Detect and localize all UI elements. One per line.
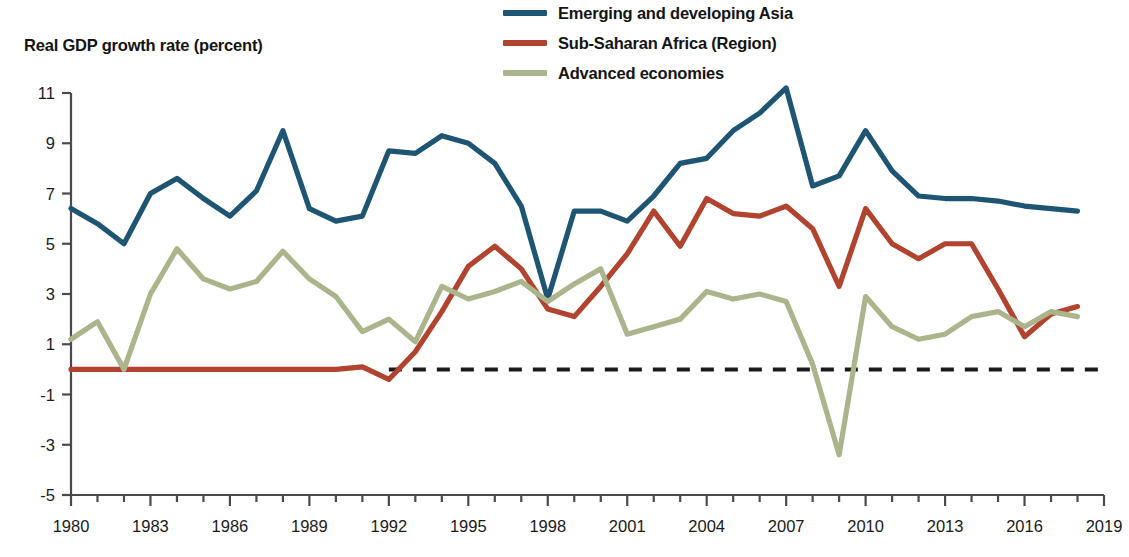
x-axis-ticks (71, 495, 1104, 506)
gdp-growth-line-chart: Real GDP growth rate (percent) Emerging … (0, 0, 1129, 557)
series-line (71, 199, 1078, 380)
svg-text:2013: 2013 (927, 517, 964, 535)
svg-text:2001: 2001 (609, 517, 646, 535)
svg-text:-5: -5 (40, 486, 55, 504)
data-series (71, 88, 1078, 455)
svg-text:2007: 2007 (768, 517, 805, 535)
svg-text:7: 7 (46, 185, 55, 203)
axis-lines (71, 93, 1104, 495)
x-axis-tick-labels: 1980198319861989199219951998200120042007… (53, 517, 1123, 535)
svg-text:1989: 1989 (291, 517, 328, 535)
svg-text:-3: -3 (40, 436, 55, 454)
y-axis-ticks (62, 93, 71, 495)
plot-area: 1197531-1-3-5 19801983198619891992199519… (0, 0, 1129, 557)
svg-text:1986: 1986 (212, 517, 249, 535)
series-line (71, 249, 1078, 455)
svg-text:1998: 1998 (529, 517, 566, 535)
svg-text:2004: 2004 (688, 517, 725, 535)
svg-text:1992: 1992 (370, 517, 407, 535)
svg-text:3: 3 (46, 285, 55, 303)
svg-text:1: 1 (46, 335, 55, 353)
plot-svg: 1197531-1-3-5 19801983198619891992199519… (0, 0, 1129, 557)
svg-text:11: 11 (38, 84, 55, 102)
series-line (71, 88, 1078, 299)
svg-text:1983: 1983 (132, 517, 169, 535)
svg-text:2010: 2010 (847, 517, 884, 535)
svg-text:2016: 2016 (1006, 517, 1043, 535)
svg-text:5: 5 (46, 235, 55, 253)
svg-text:9: 9 (46, 134, 55, 152)
svg-text:1995: 1995 (450, 517, 487, 535)
svg-text:2019: 2019 (1086, 517, 1123, 535)
svg-text:-1: -1 (40, 386, 55, 404)
svg-text:1980: 1980 (53, 517, 90, 535)
y-axis-tick-labels: 1197531-1-3-5 (38, 84, 55, 504)
